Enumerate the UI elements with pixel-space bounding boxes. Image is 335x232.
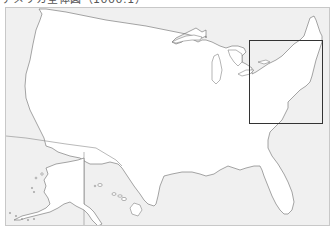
map-frame[interactable]	[5, 7, 330, 226]
northeast-inset-box[interactable]	[249, 40, 323, 124]
map-page: アメリカ全体図（1000:1）	[0, 0, 335, 232]
map-title: アメリカ全体図（1000:1）	[2, 0, 146, 6]
alaska	[14, 158, 102, 226]
hawaii	[94, 184, 142, 217]
